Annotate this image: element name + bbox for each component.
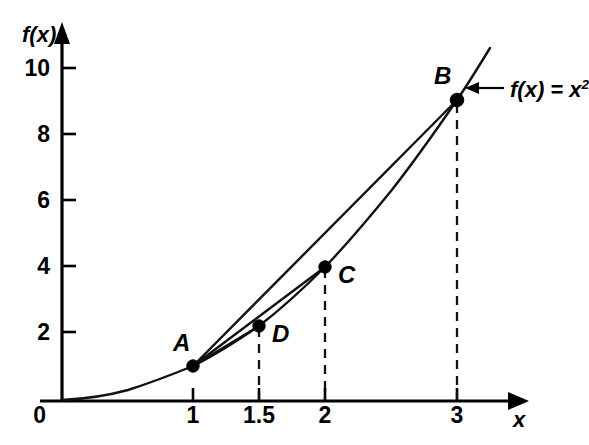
x-tick-label-3: 3 bbox=[427, 404, 487, 427]
x-tick-label-2: 2 bbox=[295, 404, 355, 427]
y-tick-label-4: 4 bbox=[6, 255, 50, 278]
point-label-b: B bbox=[434, 64, 451, 88]
origin-label: 0 bbox=[22, 404, 46, 427]
y-tick-label-6: 6 bbox=[6, 189, 50, 212]
plot-canvas bbox=[0, 0, 589, 445]
secant-a-b bbox=[193, 100, 457, 366]
parabola-curve bbox=[62, 48, 490, 400]
x-tick-label-1p5: 1.5 bbox=[229, 404, 289, 427]
graph-figure: f(x) x 0 10 8 6 4 2 1 1.5 2 3 A B C D f(… bbox=[0, 0, 589, 445]
point-a-dot bbox=[187, 360, 199, 372]
point-label-d: D bbox=[272, 322, 289, 346]
y-axis-title: f(x) bbox=[22, 24, 56, 46]
x-tick-label-1: 1 bbox=[163, 404, 223, 427]
point-label-a: A bbox=[173, 331, 190, 355]
y-tick-label-10: 10 bbox=[6, 57, 50, 80]
y-axis-ticks bbox=[62, 68, 76, 332]
function-annotation-exponent: 2 bbox=[582, 77, 589, 92]
point-c-dot bbox=[319, 261, 331, 273]
y-tick-label-2: 2 bbox=[6, 321, 50, 344]
y-tick-label-8: 8 bbox=[6, 123, 50, 146]
point-b-dot bbox=[450, 93, 464, 107]
function-annotation: f(x) = x2 bbox=[510, 78, 589, 101]
function-annotation-text: f(x) = x bbox=[510, 77, 582, 102]
point-d-dot bbox=[253, 320, 265, 332]
x-axis-title: x bbox=[513, 409, 525, 431]
y-axis-arrow-icon bbox=[54, 22, 70, 44]
point-label-c: C bbox=[338, 263, 355, 287]
